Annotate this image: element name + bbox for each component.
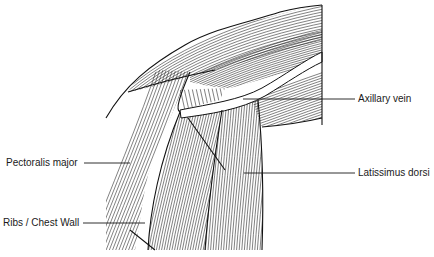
latissimus-dorsi-fibers [205, 100, 274, 255]
label-axillary-vein: Axillary vein [358, 93, 411, 105]
label-latissimus-dorsi: Latissimus dorsi [358, 167, 430, 179]
label-pectoralis-major: Pectoralis major [6, 157, 78, 169]
label-ribs-chest-wall: Ribs / Chest Wall [3, 217, 79, 229]
